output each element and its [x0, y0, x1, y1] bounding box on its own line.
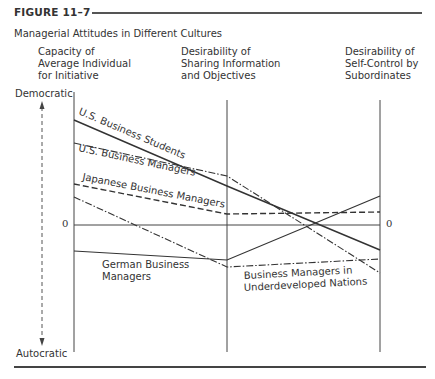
chart-canvas: U.S. Business Students U.S. Business Man… [0, 0, 435, 379]
scale-arrow [40, 101, 45, 346]
arrow-down-icon [40, 338, 45, 346]
footer-rule [14, 366, 426, 368]
label-german-1: German Business [102, 259, 189, 270]
label-german-2: Managers [102, 271, 151, 282]
arrow-up-icon [40, 101, 45, 109]
